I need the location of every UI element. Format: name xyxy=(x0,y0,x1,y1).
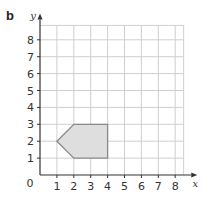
y-tick-label: 7 xyxy=(27,51,34,64)
origin-label: 0 xyxy=(27,177,34,190)
y-axis-arrow-icon xyxy=(38,14,43,20)
coordinate-diagram: b 12345678123456780xy xyxy=(0,0,216,199)
y-tick-label: 1 xyxy=(27,152,34,165)
y-axis-label: y xyxy=(29,10,36,21)
y-tick-label: 8 xyxy=(27,34,34,47)
coordinate-grid: 12345678123456780xy xyxy=(0,0,216,199)
pentagon-shape xyxy=(57,124,108,158)
x-axis-arrow-icon xyxy=(191,173,197,178)
y-tick-label: 6 xyxy=(27,68,34,81)
y-tick-label: 4 xyxy=(27,101,34,114)
y-tick-label: 5 xyxy=(27,85,34,98)
x-tick-label: 6 xyxy=(138,180,145,193)
x-tick-label: 7 xyxy=(155,180,162,193)
x-tick-label: 1 xyxy=(53,180,60,193)
x-tick-label: 2 xyxy=(70,180,77,193)
x-tick-label: 5 xyxy=(121,180,128,193)
x-tick-label: 3 xyxy=(87,180,94,193)
x-tick-label: 4 xyxy=(104,180,111,193)
x-axis-label: x xyxy=(192,178,198,189)
y-tick-label: 3 xyxy=(27,118,34,131)
x-tick-label: 8 xyxy=(172,180,179,193)
y-tick-label: 2 xyxy=(27,135,34,148)
